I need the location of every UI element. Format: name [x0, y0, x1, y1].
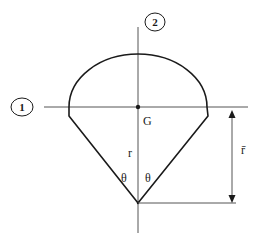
arrow-up-icon [229, 110, 236, 118]
radius-label: r [128, 146, 132, 160]
sector-diagram: 1 2 G r θ θ r̄ [0, 0, 258, 240]
angle-left-label: θ [121, 171, 127, 185]
axis-1-label: 1 [19, 101, 25, 113]
axis-2-badge: 2 [145, 13, 165, 31]
centroid-distance-label: r̄ [241, 143, 246, 157]
centroid-label: G [143, 114, 152, 128]
axis-2-label: 2 [152, 16, 158, 28]
axis-1-badge: 1 [11, 98, 33, 116]
arrow-down-icon [229, 195, 236, 203]
centroid-point [136, 105, 140, 109]
angle-right-label: θ [145, 171, 151, 185]
